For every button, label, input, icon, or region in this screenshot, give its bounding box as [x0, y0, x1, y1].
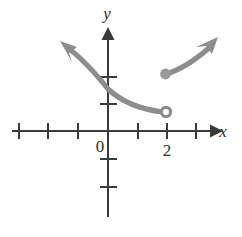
y-axis — [102, 27, 115, 217]
x-tick-label-2: 2 — [163, 141, 172, 160]
y-axis-label: y — [101, 4, 111, 23]
x-axis — [12, 125, 223, 138]
graph-figure: x y 0 2 — [0, 0, 242, 237]
open-endpoint-circle — [161, 107, 170, 116]
right-branch-curve — [166, 37, 218, 74]
origin-label: 0 — [96, 137, 105, 156]
left-branch-path — [68, 48, 163, 112]
coordinate-plane-svg: x y 0 2 — [0, 0, 242, 237]
closed-endpoint-dot — [160, 69, 171, 80]
right-branch-path — [166, 48, 209, 74]
x-axis-label: x — [218, 122, 227, 141]
y-axis-arrowhead — [102, 27, 115, 40]
